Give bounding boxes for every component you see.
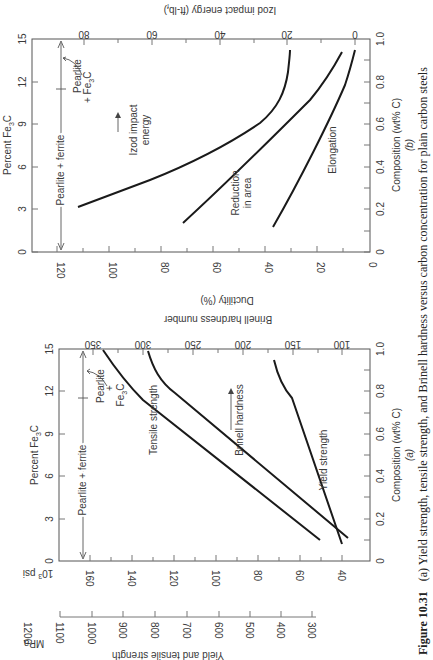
panel-a-composition-title: Composition (wt% C): [391, 408, 402, 502]
tick-label: 15: [17, 33, 28, 45]
tick-label: 0.2: [375, 202, 386, 216]
curve-tensile-strength: [103, 350, 320, 540]
tick-label: 0.2: [375, 512, 386, 526]
panel-b-izod-title: Izod impact energy (ft-lbf): [164, 3, 277, 16]
psi-unit-label: 103 psi: [23, 568, 54, 580]
tick-label: 1100: [54, 622, 65, 644]
tick-label: 300: [134, 339, 151, 350]
tick-label: 500: [244, 622, 255, 639]
tick-label: 80: [78, 29, 90, 40]
curve-izod-impact-energy: [78, 50, 290, 207]
tick-label: 900: [117, 622, 128, 639]
panel-a-brinell-title: Brinell hardness number: [163, 314, 272, 325]
tick-label: 0: [17, 249, 28, 255]
tick-label: 200: [234, 339, 251, 350]
panel-a-mpa-axis: 300 400 500 600 700 800 900 1000 1100 12…: [22, 611, 317, 660]
tick-label: 0.4: [375, 469, 386, 483]
tick-label: 80: [159, 262, 170, 274]
tick-label: 100: [107, 262, 118, 279]
tick-label: 12: [17, 76, 28, 88]
panel-b-ductility-axis: 0 20 40 60 80 100 120 Ductility (%): [55, 246, 378, 306]
caption-text: Figure 10.31(a) Yield strength, tensile …: [416, 67, 430, 655]
izod-arrow-icon: [115, 112, 121, 132]
label-brinell-hardness: Brinell hardness: [234, 384, 245, 456]
tick-label: 0.8: [375, 384, 386, 398]
panel-b-ductility-title: Ductility (%): [200, 295, 253, 306]
curve-elongation: [273, 50, 355, 227]
tick-label: 250: [184, 339, 201, 350]
label-fe3c: Fe3C: [115, 384, 128, 407]
mpa-unit-label: MPa: [23, 638, 44, 649]
tick-label: 0.6: [375, 427, 386, 441]
tick-label: 20: [315, 262, 326, 274]
tick-label: 160: [84, 570, 95, 587]
panel-a-region-markers: Pearlite + ferrite Pearlite + Fe3C: [77, 351, 128, 559]
panel-b-composition-axis: 0 0.2 0.4 0.6 0.8 1.0 Composition (wt% C…: [364, 32, 415, 255]
panel-b-composition-title: Composition (wt% C): [391, 98, 402, 192]
tick-label: 350: [84, 339, 101, 350]
panel-a-label: (a): [404, 449, 415, 461]
label-pearlite-fe3c-2: + Fe3C: [82, 72, 95, 103]
tick-label: 60: [146, 29, 158, 40]
curve-yield-strength: [274, 360, 342, 544]
label-reduction-2: in area: [242, 177, 253, 208]
panel-a-strength-title: Yield and tensile strength: [112, 650, 224, 660]
label-reduction-1: Reduction: [230, 170, 241, 215]
figure-caption: Figure 10.31(a) Yield strength, tensile …: [416, 67, 430, 655]
tick-label: 40: [214, 29, 226, 40]
panel-b-fe3c-title: Percent Fe3C: [2, 115, 15, 175]
tick-label: 60: [211, 262, 222, 274]
tick-label: 0: [352, 29, 358, 40]
tick-label: 140: [126, 570, 137, 587]
panel-b-fe3c-axis: 0 3 6 9 12 15 Percent Fe3C: [2, 33, 38, 255]
tick-label: 120: [168, 570, 179, 587]
panel-a-fe3c-axis: 0 3 6 9 12 15 Percent Fe3C: [29, 343, 65, 564]
tick-label: 15: [44, 343, 55, 355]
label-plus: +: [104, 385, 115, 391]
label-elongation: Elongation: [327, 126, 338, 173]
tick-label: 1000: [86, 622, 97, 645]
tick-label: 0: [367, 262, 378, 268]
curve-reduction-in-area: [183, 52, 342, 223]
tick-label: 400: [275, 622, 286, 639]
tick-label: 0.8: [375, 75, 386, 89]
label-yield-strength: Yield strength: [318, 430, 329, 491]
panel-b-label: (b): [404, 139, 415, 151]
tick-label: 700: [181, 622, 192, 639]
tick-label: 60: [294, 570, 305, 582]
tick-label: 3: [44, 516, 55, 522]
tick-label: 9: [44, 431, 55, 437]
tick-label: 3: [17, 206, 28, 212]
figure-canvas: 0 0.2 0.4 0.6 0.8 1.0 Composition (wt% C…: [0, 0, 433, 660]
tick-label: 12: [44, 385, 55, 397]
tick-label: 100: [210, 570, 221, 587]
tick-label: 40: [263, 262, 274, 274]
tick-label: 6: [17, 164, 28, 170]
panel-b-region-markers: Pearlite + ferrite Pearlite + Fe3C: [55, 41, 95, 250]
panel-a: 0 0.2 0.4 0.6 0.8 1.0 Composition (wt% C…: [22, 314, 415, 660]
tick-label: 0.6: [375, 117, 386, 131]
label-pearlite-ferrite: Pearlite + ferrite: [77, 444, 88, 515]
tick-label: 800: [149, 622, 160, 639]
tick-label: 6: [44, 473, 55, 479]
tick-label: 1.0: [375, 342, 386, 356]
tick-label: 0: [44, 558, 55, 564]
tick-label: 0.4: [375, 160, 386, 174]
tick-label: 0: [375, 249, 386, 255]
tick-label: 150: [284, 339, 301, 350]
tick-label: 300: [306, 622, 317, 639]
label-pearlite-ferrite: Pearlite + ferrite: [55, 134, 66, 205]
tick-label: 40: [336, 570, 347, 582]
tick-label: 9: [17, 121, 28, 127]
tick-label: 120: [55, 262, 66, 279]
tick-label: 80: [252, 570, 263, 582]
tick-label: 0: [375, 558, 386, 564]
panel-b: 0 0.2 0.4 0.6 0.8 1.0 Composition (wt% C…: [2, 3, 415, 306]
label-izod-1: Izod impact: [128, 104, 139, 155]
tick-label: 1.0: [375, 32, 386, 46]
panel-a-composition-axis: 0 0.2 0.4 0.6 0.8 1.0 Composition (wt% C…: [364, 342, 415, 564]
label-izod-2: energy: [140, 115, 151, 146]
panel-a-fe3c-title: Percent Fe3C: [29, 425, 42, 485]
tick-label: 20: [281, 29, 293, 40]
tick-label: 600: [213, 622, 224, 639]
